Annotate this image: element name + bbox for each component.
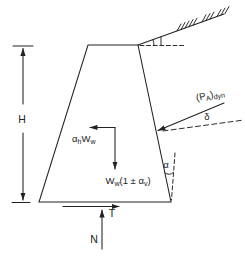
wall-angle-arc xyxy=(165,173,174,175)
hatch-mark xyxy=(225,7,229,14)
wall-inclination-angle-label: α xyxy=(163,159,169,170)
wall-vertical-dashed-line xyxy=(172,153,176,200)
wall-friction-angle-label: δ xyxy=(204,111,209,122)
figure-canvas: H αhWw Ww(1 ± αv) (PA)dyn δ α T N xyxy=(0,0,245,256)
slope-angle-arc xyxy=(153,40,154,46)
dynamic-thrust-arrow xyxy=(158,103,224,131)
retaining-wall-force-diagram: H αhWw Ww(1 ± αv) (PA)dyn δ α T N xyxy=(0,0,245,256)
dynamic-thrust-label: (PA)dyn xyxy=(195,86,226,105)
vertical-weight-label: Ww(1 ± αv) xyxy=(106,175,151,187)
base-normal-label: N xyxy=(90,233,98,245)
height-label: H xyxy=(18,113,26,125)
horizontal-inertia-label: αhWw xyxy=(72,133,96,145)
base-shear-label: T xyxy=(109,207,116,219)
ground-hatching xyxy=(177,7,229,31)
